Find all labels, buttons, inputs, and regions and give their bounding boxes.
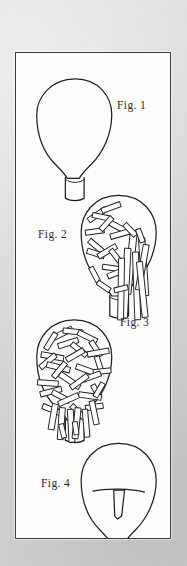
fig-2-drawing — [81, 195, 156, 320]
figure-label-fig-1: Fig. 1 — [117, 99, 146, 111]
fig-1-drawing — [37, 79, 112, 201]
fig-3-sticks — [37, 326, 111, 442]
fig-2-sticks — [85, 202, 149, 320]
figure-panel: .ink { fill: none; stroke: #1f1f1f; stro… — [15, 52, 171, 539]
figure-label-fig-2: Fig. 2 — [38, 228, 67, 240]
fig-3-drawing — [37, 320, 112, 443]
figure-plate: .ink { fill: none; stroke: #1f1f1f; stro… — [0, 0, 187, 566]
figure-label-fig-3: Fig. 3 — [120, 316, 149, 328]
figure-label-fig-4: Fig. 4 — [41, 477, 70, 489]
figure-drawing-canvas: .ink { fill: none; stroke: #1f1f1f; stro… — [16, 53, 170, 538]
fig-4-drawing — [81, 443, 156, 538]
